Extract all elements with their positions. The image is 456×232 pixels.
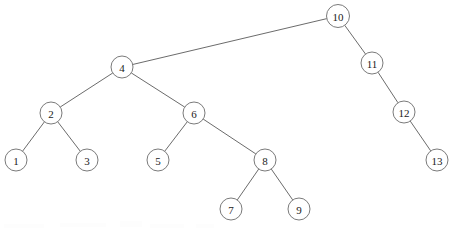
tree-edge xyxy=(131,73,184,107)
tree-edge xyxy=(133,19,327,65)
tree-edge xyxy=(58,122,81,152)
tree-edge xyxy=(378,72,398,103)
tree-node[interactable]: 3 xyxy=(76,149,98,171)
tree-node[interactable]: 2 xyxy=(40,102,62,124)
tree-node[interactable]: 8 xyxy=(254,149,276,171)
tree-node[interactable]: 4 xyxy=(111,56,133,78)
binary-search-tree-figure: 10411261213581379 xyxy=(0,0,456,232)
node-label: 7 xyxy=(228,204,234,216)
tree-node[interactable]: 1 xyxy=(5,149,27,171)
tree-node[interactable]: 6 xyxy=(183,102,205,124)
node-label: 12 xyxy=(399,107,410,119)
node-label: 13 xyxy=(432,155,444,167)
tree-node[interactable]: 13 xyxy=(426,149,448,171)
node-label: 2 xyxy=(48,108,54,120)
tree-edge xyxy=(165,122,188,152)
tree-node[interactable]: 9 xyxy=(288,198,310,220)
tree-edge xyxy=(271,169,292,200)
node-label: 11 xyxy=(367,58,378,70)
node-label: 8 xyxy=(262,155,268,167)
tree-edge xyxy=(345,25,366,54)
edges-group xyxy=(23,19,431,200)
tree-canvas: 10411261213581379 xyxy=(0,0,456,232)
tree-node[interactable]: 10 xyxy=(327,5,350,28)
node-label: 4 xyxy=(119,62,125,74)
nodes-group: 10411261213581379 xyxy=(5,5,448,221)
node-label: 3 xyxy=(84,155,90,167)
node-label: 9 xyxy=(296,204,302,216)
node-label: 1 xyxy=(13,155,19,167)
tree-node[interactable]: 5 xyxy=(147,149,169,171)
tree-edge xyxy=(23,122,45,151)
tree-edge xyxy=(410,121,431,151)
tree-edge xyxy=(237,169,258,200)
tree-node[interactable]: 7 xyxy=(220,198,242,220)
tree-node[interactable]: 11 xyxy=(361,52,383,74)
tree-node[interactable]: 12 xyxy=(393,101,415,123)
node-label: 6 xyxy=(191,108,197,120)
node-label: 10 xyxy=(333,11,345,23)
node-label: 5 xyxy=(155,155,161,167)
tree-edge xyxy=(60,73,113,107)
tree-edge xyxy=(203,119,256,154)
